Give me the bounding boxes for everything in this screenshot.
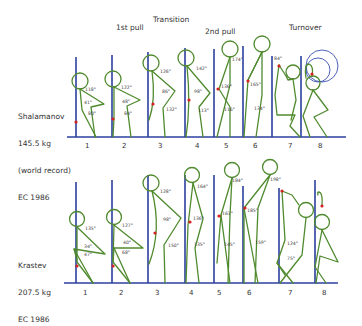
center-of-mass-dot [74,120,77,123]
angle-label: 98° [194,89,202,94]
angle-label: 161° [222,211,233,216]
figure-top-8 [303,50,338,137]
center-of-mass-dot [280,189,283,192]
angle-label: 150° [168,243,179,248]
angle-label: 84° [124,111,132,116]
figure-bottom-5: 184° 161° 145° [217,163,243,284]
figure-bottom-8 [315,192,339,283]
figure-top-7: 84° [274,56,300,137]
angle-label: 135° [194,242,205,247]
angle-label: 135° [85,226,96,231]
position-number: 2 [122,142,126,150]
center-of-mass-dot [111,264,114,267]
center-of-mass-dot [111,117,114,120]
position-number: 1 [85,142,89,150]
bottom-row: 135° 34° 47° 127° 40° 68° 128° 98° 150° [64,160,338,298]
angle-label: 124° [287,241,298,246]
center-of-mass-dot [310,72,313,75]
center-of-mass-dot [216,87,219,90]
position-number: 3 [155,289,159,297]
position-number: 4 [195,142,200,150]
angle-label: 159° [255,240,266,245]
figure-bottom-4: 164° 136° 135° [185,168,209,284]
angle-label: 128° [160,189,171,194]
center-of-mass-dot [187,98,190,101]
figure-top-4: 142° 98° 113° [178,50,210,137]
angle-label: 142° [196,66,207,71]
angle-label: 126° [160,69,171,74]
position-number: 5 [217,289,221,297]
angle-label: 185° [247,208,258,213]
angle-label: 84° [274,56,282,61]
figure-bottom-6: 198° 185° 159° [243,160,281,284]
position-number: 6 [253,142,258,150]
angle-label: 98° [163,217,171,222]
position-number: 5 [224,142,228,150]
angle-label: 136° [193,216,204,221]
position-number: 2 [119,289,123,297]
angle-label: 48° [122,99,130,104]
angle-label: 68° [122,250,130,255]
center-of-mass-dot [153,231,156,234]
position-number: 7 [288,142,292,150]
position-number: 8 [318,142,322,150]
position-number: 6 [247,289,252,297]
angle-label: 122° [121,85,132,90]
position-number: 3 [158,142,162,150]
angle-label: 134° [254,106,265,111]
angle-label: 136° [221,84,232,89]
angle-label: 47° [84,252,92,257]
angle-label: 80° [88,111,96,116]
angle-label: 174° [232,57,243,62]
angle-label: 34° [84,244,92,249]
figure-bottom-1: 135° 34° 47° [70,212,106,284]
angle-label: 113° [198,108,209,113]
position-number: 4 [189,289,194,297]
angle-label: 198° [270,177,281,182]
figure-top-5: 174° 136° 116° [216,41,243,137]
angle-label: 75° [287,256,295,261]
angle-label: 40° [123,240,131,245]
center-of-mass-dot [151,102,154,105]
position-number: 1 [83,289,87,297]
angle-label: 118° [85,87,96,92]
angle-label: 41° [84,100,92,105]
figure-top-1: 118° 41° 80° [72,73,104,137]
center-of-mass-dot [217,214,220,217]
angle-label: 116° [224,107,235,112]
angle-label: 145° [224,242,235,247]
figure-top-6: 165° 134° [244,36,270,137]
center-of-mass-dot [188,220,191,223]
figure-top-2: 122° 48° 84° [105,71,140,137]
angle-label: 132° [166,107,177,112]
top-row: 118° 41° 80° 122° 48° 84° 126° 86° 132° [67,36,346,150]
angle-label: 86° [162,89,170,94]
center-of-mass-dot [320,204,323,207]
angle-label: 164° [197,184,208,189]
angle-label: 184° [232,178,243,183]
angle-label: 127° [122,223,133,228]
athlete-event: EC 1986 [18,315,51,324]
center-of-mass-dot [277,64,280,67]
position-number: 8 [322,289,326,297]
angle-label: 165° [250,82,261,87]
center-of-mass-dot [75,264,78,267]
position-number: 7 [288,289,292,297]
figure-bottom-7: 124° 75° [277,189,314,283]
